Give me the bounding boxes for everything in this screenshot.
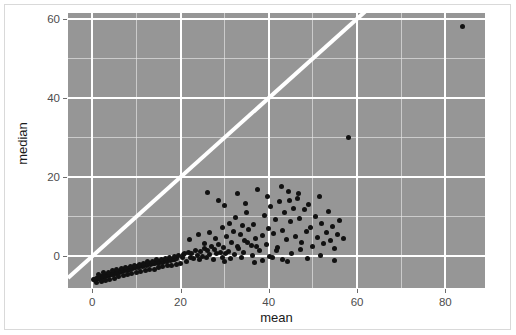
gridline-major-vertical bbox=[356, 13, 358, 288]
scatter-point bbox=[319, 221, 324, 226]
plot-panel bbox=[68, 13, 485, 288]
scatter-point bbox=[178, 261, 183, 266]
scatter-point bbox=[202, 241, 207, 246]
scatter-point bbox=[222, 203, 227, 208]
scatter-point bbox=[287, 198, 292, 203]
scatter-point bbox=[253, 236, 258, 241]
scatter-point bbox=[226, 249, 231, 254]
scatter-point bbox=[216, 198, 221, 203]
scatter-point bbox=[337, 218, 342, 223]
scatter-point bbox=[255, 187, 260, 192]
identity-reference-line bbox=[68, 13, 485, 280]
scatter-point bbox=[193, 248, 198, 253]
scatter-point bbox=[286, 189, 291, 194]
scatter-point bbox=[216, 242, 221, 247]
scatter-point bbox=[260, 233, 265, 238]
scatter-point bbox=[291, 206, 296, 211]
scatter-point bbox=[266, 226, 271, 231]
y-tick-label: 20 bbox=[47, 171, 60, 183]
scatter-point bbox=[238, 232, 243, 237]
scatter-point bbox=[222, 259, 227, 264]
gridline-major-horizontal bbox=[68, 18, 485, 20]
scatter-point bbox=[251, 222, 256, 227]
scatter-point bbox=[330, 224, 335, 229]
y-tick-mark bbox=[63, 98, 67, 99]
gridline-minor-horizontal bbox=[68, 137, 485, 138]
scatter-point bbox=[297, 216, 302, 221]
scatter-point bbox=[346, 135, 351, 140]
scatter-point bbox=[284, 237, 289, 242]
scatter-point bbox=[306, 202, 311, 207]
scatter-point bbox=[332, 258, 337, 263]
x-tick-label: 20 bbox=[174, 296, 187, 308]
gridline-major-vertical bbox=[180, 13, 182, 288]
scatter-point bbox=[328, 238, 333, 243]
scatter-point bbox=[257, 248, 262, 253]
gridline-major-horizontal bbox=[68, 97, 485, 99]
x-tick-mark bbox=[445, 289, 446, 293]
gridline-minor-vertical bbox=[136, 13, 137, 288]
x-tick-mark bbox=[92, 289, 93, 293]
gridline-major-vertical bbox=[268, 13, 270, 288]
x-tick-mark bbox=[269, 289, 270, 293]
x-tick-label: 40 bbox=[262, 296, 275, 308]
plot-area: 0204060 020406080 median mean bbox=[0, 0, 516, 335]
scatter-point bbox=[252, 260, 257, 265]
scatter-point bbox=[187, 237, 192, 242]
scatter-point bbox=[341, 236, 346, 241]
scatter-point bbox=[288, 219, 293, 224]
scatter-point bbox=[285, 259, 290, 264]
scatter-point bbox=[260, 258, 265, 263]
y-tick-label: 40 bbox=[47, 92, 60, 104]
scatter-point bbox=[321, 241, 326, 246]
scatter-point bbox=[315, 235, 320, 240]
scatter-point bbox=[305, 256, 310, 261]
scatter-point bbox=[228, 256, 233, 261]
scatter-point bbox=[270, 255, 275, 260]
y-tick-mark bbox=[63, 19, 67, 20]
scatter-point bbox=[308, 225, 313, 230]
scatter-point bbox=[246, 227, 251, 232]
x-tick-label: 80 bbox=[439, 296, 452, 308]
x-axis-title: mean bbox=[68, 310, 485, 325]
gridline-major-vertical bbox=[444, 13, 446, 288]
scatter-point bbox=[310, 244, 315, 249]
scatter-point bbox=[250, 253, 255, 258]
scatter-point bbox=[207, 230, 212, 235]
scatter-point bbox=[239, 255, 244, 260]
figure-container: 0204060 020406080 median mean bbox=[0, 0, 516, 335]
scatter-point bbox=[280, 228, 285, 233]
scatter-point bbox=[211, 257, 216, 262]
scatter-point bbox=[273, 217, 278, 222]
scatter-point bbox=[282, 210, 287, 215]
gridline-minor-horizontal bbox=[68, 58, 485, 59]
scatter-point bbox=[224, 234, 229, 239]
scatter-point bbox=[262, 213, 267, 218]
scatter-point bbox=[295, 196, 300, 201]
scatter-point bbox=[264, 242, 269, 247]
scatter-point bbox=[233, 215, 238, 220]
scatter-point bbox=[244, 210, 249, 215]
scatter-point bbox=[213, 236, 218, 241]
scatter-point bbox=[231, 229, 236, 234]
scatter-point bbox=[235, 191, 240, 196]
scatter-point bbox=[240, 223, 245, 228]
scatter-point bbox=[304, 229, 309, 234]
gridline-major-horizontal bbox=[68, 176, 485, 178]
y-tick-mark bbox=[63, 256, 67, 257]
x-tick-label: 60 bbox=[351, 296, 364, 308]
scatter-point bbox=[326, 209, 331, 214]
scatter-point bbox=[299, 240, 304, 245]
scatter-point bbox=[243, 201, 248, 206]
scatter-point bbox=[271, 231, 276, 236]
scatter-point bbox=[277, 199, 282, 204]
scatter-point bbox=[296, 191, 301, 196]
y-tick-label: 0 bbox=[54, 250, 60, 262]
scatter-point bbox=[279, 184, 284, 189]
scatter-point bbox=[229, 240, 234, 245]
scatter-point bbox=[205, 190, 210, 195]
x-tick-mark bbox=[357, 289, 358, 293]
scatter-point bbox=[274, 248, 279, 253]
scatter-point bbox=[317, 194, 322, 199]
gridline-major-vertical bbox=[91, 13, 93, 288]
